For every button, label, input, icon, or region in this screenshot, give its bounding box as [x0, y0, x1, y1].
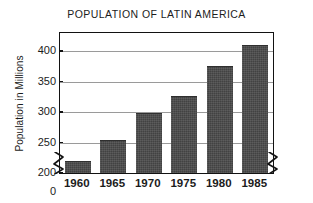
chart-figure: POPULATION OF LATIN AMERICA Population i… — [0, 0, 313, 203]
y-axis-tick-labels: 0200250300350400 — [18, 32, 56, 174]
gridline — [60, 51, 273, 52]
x-tick-label: 1965 — [95, 178, 131, 190]
bar-1985 — [242, 45, 268, 173]
y-tick-mark — [59, 142, 63, 144]
chart-title: POPULATION OF LATIN AMERICA — [0, 8, 313, 20]
y-tick-label: 200 — [22, 167, 56, 178]
y-axis-break-left-icon — [52, 152, 68, 174]
bar-1960 — [65, 161, 91, 173]
y-tick-label: 400 — [22, 45, 56, 56]
y-tick-mark — [59, 111, 63, 113]
bar-1965 — [100, 140, 126, 173]
y-tick-mark — [59, 81, 63, 83]
y-tick-label: 0 — [22, 186, 56, 197]
x-axis-tick-labels: 196019651970197519801985 — [59, 178, 274, 196]
x-tick-label: 1985 — [237, 178, 273, 190]
x-tick-label: 1975 — [166, 178, 202, 190]
plot-area — [59, 32, 274, 174]
gridline — [60, 82, 273, 83]
x-tick-label: 1960 — [59, 178, 95, 190]
bar-1980 — [207, 66, 233, 173]
y-tick-label: 300 — [22, 106, 56, 117]
bar-1975 — [171, 96, 197, 173]
y-axis-break-right-icon — [266, 152, 282, 174]
y-tick-mark — [59, 172, 63, 174]
bar-1970 — [136, 113, 162, 173]
x-tick-label: 1970 — [130, 178, 166, 190]
gridline — [60, 112, 273, 113]
x-tick-label: 1980 — [201, 178, 237, 190]
y-tick-mark — [59, 50, 63, 52]
y-tick-label: 350 — [22, 76, 56, 87]
y-tick-label: 250 — [22, 137, 56, 148]
gridline — [60, 143, 273, 144]
